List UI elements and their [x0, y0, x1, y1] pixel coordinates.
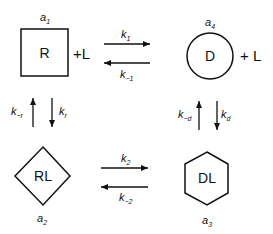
rate-k1: k1 [121, 28, 131, 42]
state-a1: a1 [40, 11, 50, 25]
node-d: D + L a4 [187, 16, 261, 79]
node-r-label: R [39, 45, 49, 61]
rate-k2: k2 [121, 152, 131, 166]
state-a2: a2 [37, 212, 47, 226]
node-d-label: D [205, 48, 215, 64]
node-d-suffix: + L [240, 47, 261, 64]
node-rl-label: RL [34, 168, 52, 184]
node-r: R +L a1 [21, 11, 90, 76]
state-a4: a4 [205, 16, 215, 30]
state-a3: a3 [202, 214, 212, 228]
edge-d-dl: k−d kd [178, 101, 232, 130]
rate-k-d: k−d [178, 108, 193, 122]
node-dl-label: DL [198, 170, 216, 186]
node-r-suffix: +L [73, 45, 90, 62]
rate-kr: kr [59, 105, 68, 119]
kinetic-scheme-diagram: R +L a1 D + L a4 RL a2 DL a3 k1 k−1 k2 k… [0, 0, 273, 234]
rate-k-r: k−r [11, 105, 24, 119]
edge-r-rl: k−r kr [11, 98, 68, 127]
edge-rl-dl: k2 k−2 [101, 152, 148, 205]
rate-k-2: k−2 [119, 191, 133, 205]
rate-k-1: k−1 [120, 68, 134, 82]
rate-kd: kd [221, 108, 232, 122]
edge-r-d: k1 k−1 [104, 28, 150, 82]
node-dl: DL a3 [185, 152, 228, 228]
node-rl: RL a2 [15, 147, 70, 226]
